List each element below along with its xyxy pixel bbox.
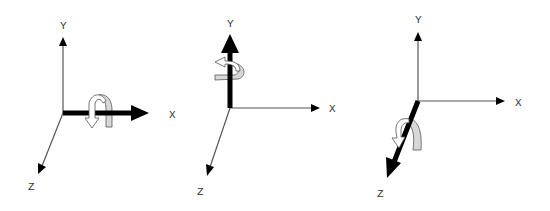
z-axis-label: Z	[377, 188, 384, 200]
x-axis-label: X	[169, 109, 176, 121]
z-axis-label: Z	[197, 186, 204, 198]
x-axis-label: X	[515, 97, 522, 109]
y-axis-label: Y	[227, 18, 234, 30]
x-arrowhead-icon	[496, 97, 505, 105]
x-arrowhead-icon	[311, 104, 320, 112]
y-arrowhead-icon	[59, 37, 67, 46]
diagram-rotation-z: Y X Z	[377, 14, 522, 200]
y-axis	[59, 37, 67, 113]
z-axis	[38, 113, 63, 174]
y-arrowhead-icon	[414, 32, 422, 41]
z-axis-label: Z	[28, 181, 35, 193]
x-axis	[230, 104, 320, 112]
z-arrowhead-icon	[386, 157, 401, 178]
y-arrowhead-icon	[221, 34, 239, 53]
coordinate-rotation-figure: Y Z X X Z	[0, 0, 550, 211]
z-arrowhead-icon	[206, 164, 214, 176]
x-axis	[418, 97, 505, 105]
diagram-rotation-x: Y Z X	[28, 20, 176, 193]
y-axis-label: Y	[60, 20, 67, 32]
x-arrowhead-icon	[131, 105, 149, 121]
y-axis	[414, 32, 422, 101]
x-axis-label: X	[329, 103, 336, 115]
z-axis	[206, 108, 230, 176]
y-axis-label: Y	[415, 14, 422, 26]
diagram-rotation-y: X Z Y	[197, 18, 336, 198]
